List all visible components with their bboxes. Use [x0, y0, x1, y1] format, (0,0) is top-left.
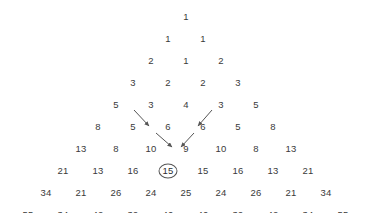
number-cell: 24: [146, 188, 157, 198]
number-cell: 13: [286, 144, 297, 154]
number-cell: 8: [95, 122, 100, 132]
number-cell: 2: [200, 78, 205, 88]
number-cell: 39: [233, 210, 244, 213]
number-cell: 26: [251, 188, 262, 198]
number-cell: 3: [148, 100, 153, 110]
number-cell: 13: [93, 166, 104, 176]
number-cell: 10: [146, 144, 157, 154]
number-cell: 13: [76, 144, 87, 154]
number-cell: 21: [58, 166, 69, 176]
number-cell: 55: [338, 210, 349, 213]
number-cell: 40: [163, 210, 174, 213]
number-cell: 34: [58, 210, 69, 213]
number-cell: 42: [93, 210, 104, 213]
number-cell: 3: [235, 78, 240, 88]
number-cell: 42: [268, 210, 279, 213]
number-cell: 13: [268, 166, 279, 176]
number-cell: 39: [128, 210, 139, 213]
number-cell: 1: [183, 12, 188, 22]
number-cell: 26: [111, 188, 122, 198]
number-cell: 2: [218, 56, 223, 66]
number-cell: 24: [216, 188, 227, 198]
number-cell: 55: [23, 210, 34, 213]
number-cell: 2: [165, 78, 170, 88]
number-cell: 2: [148, 56, 153, 66]
number-cell: 21: [303, 166, 314, 176]
number-cell: 34: [321, 188, 332, 198]
number-cell: 21: [286, 188, 297, 198]
number-cell: 15: [198, 166, 209, 176]
number-cell: 5: [253, 100, 258, 110]
number-triangle-figure: 1112123223534358566581381091081321131615…: [0, 0, 380, 213]
number-cell: 16: [233, 166, 244, 176]
number-cell: 5: [130, 122, 135, 132]
number-cell: 1: [200, 34, 205, 44]
number-cell: 34: [303, 210, 314, 213]
number-cell: 9: [183, 144, 188, 154]
number-cell: 10: [216, 144, 227, 154]
number-cell: 25: [181, 188, 192, 198]
arrow-layer: [0, 0, 380, 213]
number-cell: 21: [76, 188, 87, 198]
number-cell: 5: [113, 100, 118, 110]
arrow-5-to-10-icon: [134, 110, 149, 126]
number-cell: 40: [198, 210, 209, 213]
number-cell: 6: [200, 122, 205, 132]
number-cell: 4: [183, 100, 188, 110]
number-cell: 34: [41, 188, 52, 198]
number-cell: 1: [183, 56, 188, 66]
highlighted-number-cell: 15: [163, 166, 174, 176]
number-cell: 1: [165, 34, 170, 44]
number-cell: 6: [165, 122, 170, 132]
number-cell: 5: [235, 122, 240, 132]
number-cell: 3: [130, 78, 135, 88]
number-cell: 8: [113, 144, 118, 154]
number-cell: 3: [218, 100, 223, 110]
number-cell: 8: [253, 144, 258, 154]
number-cell: 8: [270, 122, 275, 132]
number-cell: 16: [128, 166, 139, 176]
arrow-10-to-15-icon: [156, 133, 172, 147]
